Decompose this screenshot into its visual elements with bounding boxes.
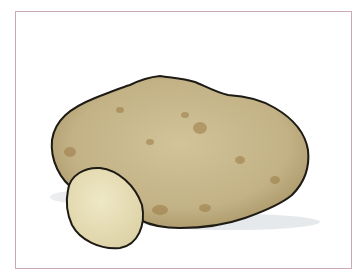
potato-illustration <box>0 0 359 276</box>
